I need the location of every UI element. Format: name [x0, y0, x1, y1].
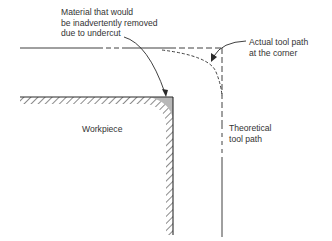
leader-arrow-actual-path	[211, 41, 246, 62]
actual-tool-path-line2: at the corner	[249, 48, 297, 58]
workpiece-hatch	[20, 97, 173, 235]
theoretical-line1: Theoretical	[229, 123, 272, 133]
actual-tool-path-label: Actual tool pathat the corner	[249, 37, 308, 58]
theoretical-line2: tool path	[229, 134, 262, 144]
workpiece-edge	[20, 97, 173, 235]
material-removed-line1: Material that would	[61, 7, 133, 17]
theoretical-tool-path-label: Theoreticaltool path	[229, 123, 272, 144]
material-removed-line3: due to undercut	[61, 28, 121, 38]
workpiece-label: Workpiece	[82, 124, 122, 135]
leader-arrow-material	[124, 37, 168, 97]
material-removed-line2: be inadvertently removed	[61, 18, 158, 28]
material-removed-label: Material that wouldbe inadvertently remo…	[61, 7, 158, 39]
actual-tool-path-line1: Actual tool path	[249, 37, 308, 47]
